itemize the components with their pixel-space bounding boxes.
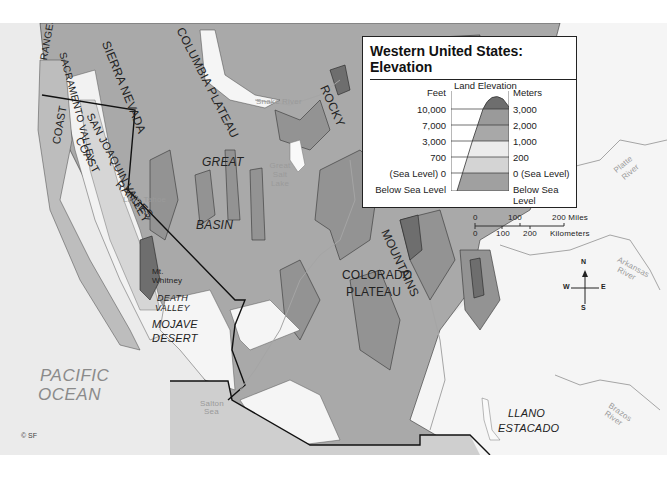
legend-meters-1000: 1,000	[513, 136, 537, 147]
scale-km-100: 100	[496, 229, 510, 238]
legend-meters-header: Meters	[513, 87, 542, 98]
compass-e: E	[601, 283, 606, 290]
label-mt-whitney: Mt. Whitney	[152, 267, 182, 285]
legend-land-elevation-header: Land Elevation	[454, 80, 517, 91]
label-great: GREAT	[202, 155, 243, 169]
legend-feet-700: 700	[366, 152, 446, 163]
label-lake-tahoe: Lake Tahoe	[123, 195, 166, 204]
compass-n: N	[581, 258, 586, 265]
scale-miles-200: 200 Miles	[552, 213, 588, 222]
label-snake-river: Snake River	[256, 97, 302, 106]
legend-meters-below-sea: Below Sea Level	[513, 184, 576, 206]
label-colorado-1: COLORADO	[342, 268, 412, 282]
copyright-notice: © SF	[21, 432, 37, 439]
scale-km-unit: Kilometers	[550, 229, 590, 238]
compass-rose-icon: N S W E	[565, 262, 605, 312]
title-line-1: Western United States:	[370, 43, 523, 59]
legend-feet-3000: 3,000	[366, 136, 446, 147]
legend-feet-7000: 7,000	[366, 120, 446, 131]
scale-miles-100: 100	[508, 213, 522, 222]
elevation-legend: Western United States: Elevation Feet La…	[362, 36, 577, 208]
scale-bar: 0 100 200 Miles 0 100 200 Kilometers	[470, 213, 570, 243]
label-pacific-2: OCEAN	[38, 385, 101, 405]
legend-feet-header: Feet	[366, 87, 446, 98]
title-line-2: Elevation	[370, 59, 523, 75]
scale-km-0: 0	[473, 229, 478, 238]
legend-meters-2000: 2,000	[513, 120, 537, 131]
label-mojave-2: DESERT	[152, 332, 198, 344]
legend-title: Western United States: Elevation	[370, 43, 523, 75]
legend-feet-below-sea: Below Sea Level	[366, 184, 446, 195]
legend-elevation-profile	[451, 91, 509, 191]
legend-meters-3000: 3,000	[513, 104, 537, 115]
legend-feet-sea-level: (Sea Level) 0	[366, 168, 446, 179]
label-colorado-2: PLATEAU	[346, 285, 401, 299]
compass-w: W	[563, 283, 570, 290]
label-death-valley-2: VALLEY	[155, 303, 190, 313]
compass-s: S	[581, 304, 586, 311]
scale-miles-0: 0	[473, 213, 478, 222]
legend-feet-10000: 10,000	[366, 104, 446, 115]
label-llano-1: LLANO	[508, 407, 545, 419]
label-death-valley-1: DEATH	[157, 293, 188, 303]
label-basin: BASIN	[196, 218, 233, 232]
label-llano-2: ESTACADO	[498, 422, 559, 434]
scale-km-200: 200	[523, 229, 537, 238]
legend-meters-200: 200	[513, 152, 529, 163]
legend-meters-sea-level: 0 (Sea Level)	[513, 168, 570, 179]
label-great-salt-lake: Great Salt Lake	[265, 161, 295, 188]
label-mojave-1: MOJAVE	[152, 318, 198, 330]
label-salton-sea-2: Sea	[204, 407, 219, 416]
label-pacific-1: PACIFIC	[40, 366, 109, 386]
